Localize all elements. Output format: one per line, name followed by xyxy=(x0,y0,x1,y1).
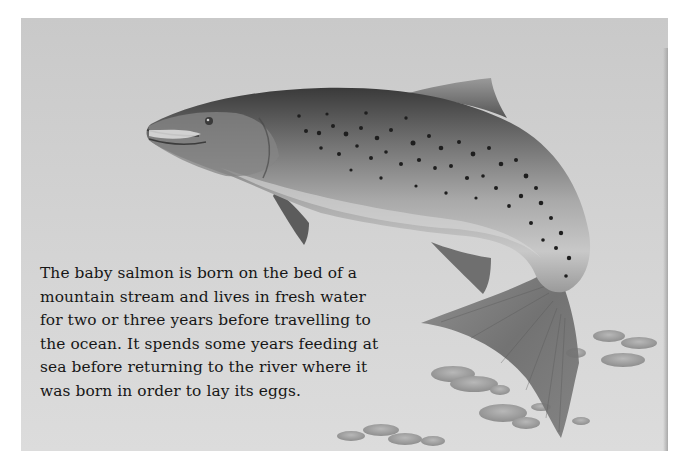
caption-line: sea before returning to the river where … xyxy=(40,356,400,380)
caption-line: the ocean. It spends some years feeding … xyxy=(40,333,400,357)
caption-line: was born in order to lay its eggs. xyxy=(40,380,400,404)
book-page: The baby salmon is born on the bed of a … xyxy=(0,0,673,462)
caption-line: mountain stream and lives in fresh water xyxy=(40,286,400,310)
caption-text: The baby salmon is born on the bed of a … xyxy=(40,262,400,403)
caption-line: The baby salmon is born on the bed of a xyxy=(40,262,400,286)
salmon-eye xyxy=(205,117,213,125)
pelvic-fin xyxy=(431,242,491,294)
caption-line: for two or three years before travelling… xyxy=(40,309,400,333)
page-edge-shadow xyxy=(663,48,668,451)
